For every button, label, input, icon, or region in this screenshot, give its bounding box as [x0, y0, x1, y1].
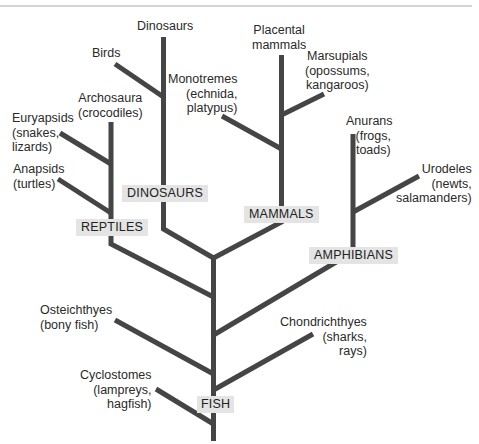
group-label-mammals: MAMMALS: [244, 206, 319, 223]
taxon-anapsids: Anapsids (turtles): [13, 162, 64, 191]
osteichthyes-branch: [115, 320, 214, 374]
taxon-birds: Birds: [92, 46, 120, 61]
taxon-cyclostomes: Cyclostomes (lampreys, hagfish): [80, 368, 152, 412]
taxon-chondrichthyes: Chondrichthyes (sharks, rays): [280, 315, 367, 359]
group-label-amphibians: AMPHIBIANS: [309, 247, 398, 264]
monotremes-branch: [222, 116, 282, 149]
taxon-archosaura: Archosaura (crocodiles): [78, 91, 143, 120]
group-label-fish: FISH: [197, 396, 234, 413]
taxon-euryapsids: Euryapsids (snakes, lizards): [12, 111, 74, 155]
anapsids-branch: [58, 179, 111, 213]
group-label-reptiles: REPTILES: [76, 219, 148, 236]
taxon-urodeles: Urodeles (newts, salamanders): [396, 162, 472, 206]
marsupials-branch: [282, 94, 325, 115]
taxon-dinosaurs: Dinosaurs: [137, 19, 193, 34]
taxon-placental-mammals: Placental mammals: [252, 23, 306, 52]
group-label-dinosaurs: DINOSAURS: [122, 185, 208, 202]
taxon-anurans: Anurans (frogs, toads): [346, 114, 393, 158]
taxon-marsupials: Marsupials (opossums, kangaroos): [305, 49, 370, 93]
dinosaurs-branch: [164, 37, 214, 258]
taxon-monotremes: Monotremes (echnida, platypus): [168, 72, 237, 116]
taxon-osteichthyes: Osteichthyes (bony fish): [40, 303, 112, 332]
tree-branches: [0, 0, 479, 444]
